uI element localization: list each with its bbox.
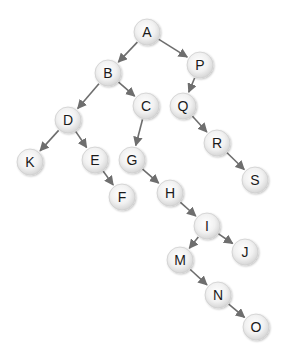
node-b: B (95, 60, 121, 86)
node-j: J (232, 239, 258, 265)
node-label: J (242, 244, 249, 260)
node-label: K (25, 154, 35, 170)
edge-e-f (103, 171, 113, 185)
edge-c-g (136, 120, 143, 146)
edge-a-b (118, 42, 137, 62)
node-f: F (109, 184, 135, 210)
node-a: A (134, 19, 160, 45)
edge-i-m (189, 237, 198, 248)
edge-r-s (227, 153, 244, 170)
node-label: P (195, 57, 204, 73)
node-label: B (103, 65, 112, 81)
edge-q-r (192, 116, 206, 132)
node-n: N (205, 282, 231, 308)
node-label: M (174, 252, 186, 268)
edge-b-c (119, 82, 135, 96)
node-c: C (133, 93, 159, 119)
node-s: S (242, 167, 268, 193)
edge-n-o (229, 304, 245, 317)
edge-g-h (143, 169, 159, 183)
node-o: O (243, 314, 269, 340)
node-k: K (17, 149, 43, 175)
node-m: M (167, 247, 193, 273)
edge-d-k (40, 130, 59, 150)
node-i: I (194, 213, 220, 239)
node-label: C (141, 98, 151, 114)
edge-p-q (189, 78, 195, 92)
node-q: Q (170, 93, 196, 119)
node-e: E (82, 147, 108, 173)
node-label: G (127, 152, 138, 168)
node-label: A (142, 24, 152, 40)
node-label: R (212, 135, 222, 151)
edge-a-p (159, 39, 187, 57)
node-label: H (165, 185, 175, 201)
edge-i-j (219, 234, 233, 244)
tree-diagram: ABPCDQKEGRFHSIJMNO (0, 0, 284, 360)
node-label: I (205, 218, 209, 234)
node-label: F (118, 189, 127, 205)
node-d: D (55, 107, 81, 133)
edge-d-e (76, 132, 87, 148)
nodes-layer: ABPCDQKEGRFHSIJMNO (17, 19, 269, 340)
edges-layer (40, 39, 244, 317)
edge-m-n (190, 269, 207, 284)
node-label: D (63, 112, 73, 128)
node-label: E (90, 152, 99, 168)
node-g: G (119, 147, 145, 173)
node-label: Q (178, 98, 189, 114)
node-label: N (213, 287, 223, 303)
edge-b-d (78, 84, 99, 109)
node-p: P (187, 52, 213, 78)
node-label: O (251, 319, 262, 335)
edge-h-i (180, 202, 195, 216)
node-h: H (157, 180, 183, 206)
node-r: R (204, 130, 230, 156)
node-label: S (250, 172, 259, 188)
